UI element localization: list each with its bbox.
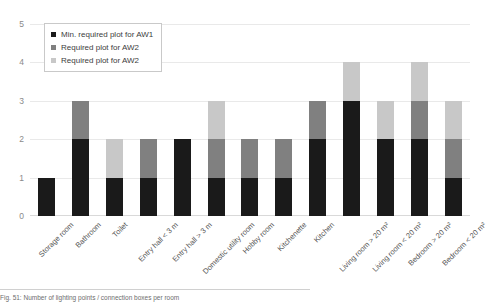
bar-segment[interactable] — [72, 139, 89, 216]
bar-stack[interactable] — [140, 139, 157, 216]
bar-segment[interactable] — [208, 139, 225, 177]
bar-group[interactable] — [368, 24, 402, 216]
x-axis-label-slot: Bathroom — [64, 219, 98, 285]
x-axis-tick-label: Toilet — [111, 221, 129, 239]
y-axis-tick-label: 5 — [19, 20, 24, 29]
bar-segment[interactable] — [445, 101, 462, 139]
x-axis-label-slot: Kitchen — [301, 219, 335, 285]
bar-stack[interactable] — [174, 139, 191, 216]
bar-group[interactable] — [165, 24, 199, 216]
bar-stack[interactable] — [208, 101, 225, 216]
bar-segment[interactable] — [106, 139, 123, 177]
x-axis-label-slot: Bedroom < 20 m² — [436, 219, 470, 285]
bar-stack[interactable] — [309, 101, 326, 216]
bar-group[interactable] — [267, 24, 301, 216]
bar-stack[interactable] — [72, 101, 89, 216]
legend-item[interactable]: Min. required plot for AW1 — [51, 28, 153, 41]
legend-item[interactable]: Required plot for AW2 — [51, 54, 153, 67]
x-axis-label-slot: Storage room — [30, 219, 64, 285]
legend-swatch-icon — [51, 32, 56, 37]
bar-segment[interactable] — [309, 139, 326, 216]
y-axis-tick-label: 2 — [19, 135, 24, 144]
x-axis-tick-label: Bedroom < 20 m² — [441, 221, 487, 267]
bar-stack[interactable] — [38, 178, 55, 216]
y-axis-tick-label: 1 — [19, 173, 24, 182]
bar-segment[interactable] — [241, 139, 258, 177]
bar-group[interactable] — [402, 24, 436, 216]
x-axis-labels: Storage roomBathroomToiletEntry hall < 3… — [30, 219, 470, 285]
bar-segment[interactable] — [411, 139, 428, 216]
x-axis-label-slot: Living room < 20 m² — [368, 219, 402, 285]
x-axis-label-slot: Hobby room — [233, 219, 267, 285]
bar-segment[interactable] — [174, 139, 191, 216]
bar-group[interactable] — [301, 24, 335, 216]
x-axis-tick-label: Kitchen — [312, 221, 335, 244]
figure-caption: Fig. 51: Number of lighting points / con… — [0, 294, 470, 302]
bar-stack[interactable] — [377, 101, 394, 216]
legend-item-label: Required plot for AW2 — [61, 44, 139, 52]
bar-group[interactable] — [199, 24, 233, 216]
bar-segment[interactable] — [343, 101, 360, 216]
bar-segment[interactable] — [343, 62, 360, 100]
bar-segment[interactable] — [208, 178, 225, 216]
x-axis-label-slot: Bedroom > 20 m² — [402, 219, 436, 285]
bar-group[interactable] — [436, 24, 470, 216]
bar-segment[interactable] — [140, 178, 157, 216]
bar-segment[interactable] — [106, 178, 123, 216]
bar-stack[interactable] — [343, 62, 360, 216]
x-axis-label-slot: Living room > 20 m² — [335, 219, 369, 285]
y-axis-tick-label: 4 — [19, 58, 24, 67]
bar-stack[interactable] — [275, 139, 292, 216]
bar-segment[interactable] — [411, 62, 428, 100]
x-axis-label-slot: Entry hall > 3 m — [165, 219, 199, 285]
bar-segment[interactable] — [72, 101, 89, 139]
x-axis-label-slot: Kitchenette — [267, 219, 301, 285]
chart-legend: Min. required plot for AW1Required plot … — [44, 23, 162, 72]
bar-stack[interactable] — [445, 101, 462, 216]
bar-segment[interactable] — [208, 101, 225, 139]
legend-swatch-icon — [51, 58, 56, 63]
bar-segment[interactable] — [140, 139, 157, 177]
bar-segment[interactable] — [275, 178, 292, 216]
x-axis-label-slot: Domestic utility room — [199, 219, 233, 285]
bar-segment[interactable] — [38, 178, 55, 216]
bar-segment[interactable] — [445, 178, 462, 216]
bar-segment[interactable] — [377, 101, 394, 139]
y-axis-tick-label: 0 — [19, 212, 24, 221]
bar-segment[interactable] — [275, 139, 292, 177]
y-axis-tick-label: 3 — [19, 97, 24, 106]
bar-segment[interactable] — [377, 139, 394, 216]
x-axis-label-slot: Toilet — [98, 219, 132, 285]
legend-item-label: Min. required plot for AW1 — [61, 31, 153, 39]
x-axis-label-slot: Entry hall < 3 m — [132, 219, 166, 285]
bar-segment[interactable] — [309, 101, 326, 139]
bar-segment[interactable] — [445, 139, 462, 177]
legend-item-label: Required plot for AW2 — [61, 57, 139, 65]
caption-divider — [0, 289, 310, 290]
legend-swatch-icon — [51, 45, 56, 50]
bar-segment[interactable] — [411, 101, 428, 139]
bar-stack[interactable] — [106, 139, 123, 216]
bar-segment[interactable] — [241, 178, 258, 216]
bar-group[interactable] — [233, 24, 267, 216]
bar-stack[interactable] — [241, 139, 258, 216]
bar-group[interactable] — [335, 24, 369, 216]
legend-item[interactable]: Required plot for AW2 — [51, 41, 153, 54]
bar-stack[interactable] — [411, 62, 428, 216]
